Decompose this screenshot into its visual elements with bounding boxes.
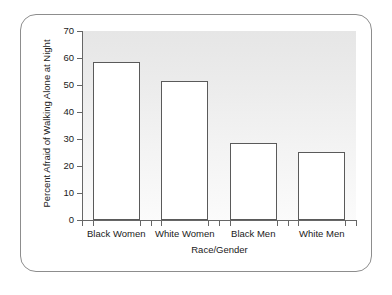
y-axis-line	[82, 31, 83, 221]
y-axis-title: Percent Afraid of Walking Alone at Night	[41, 29, 52, 219]
bar	[298, 152, 345, 220]
x-axis-title: Race/Gender	[82, 244, 357, 255]
bar	[93, 62, 140, 220]
x-axis-category-label: Black Men	[219, 228, 288, 239]
y-axis-tick	[77, 85, 82, 86]
x-axis-tick	[208, 221, 209, 226]
bar	[230, 143, 277, 220]
x-axis-tick	[82, 221, 83, 226]
x-axis-tick	[93, 221, 94, 226]
y-axis-tick-label: 20	[50, 161, 74, 171]
x-axis-category-label: White Women	[151, 228, 220, 239]
y-axis-tick-label: 30	[50, 134, 74, 144]
y-axis-tick-label: 50	[50, 80, 74, 90]
y-axis-tick	[77, 139, 82, 140]
bar	[161, 81, 208, 220]
x-axis-tick	[161, 221, 162, 226]
x-axis-category-label: Black Women	[82, 228, 151, 239]
y-axis-tick	[77, 31, 82, 32]
y-axis-tick	[77, 58, 82, 59]
x-axis-tick	[151, 221, 152, 226]
x-axis-tick	[230, 221, 231, 226]
x-axis-tick	[288, 221, 289, 226]
x-axis-tick	[345, 221, 346, 226]
x-axis-tick	[277, 221, 278, 226]
x-axis-tick	[298, 221, 299, 226]
y-axis-tick	[77, 193, 82, 194]
y-axis-tick-label: 60	[50, 53, 74, 63]
y-axis-tick	[77, 166, 82, 167]
y-axis-tick-label: 70	[50, 26, 74, 36]
y-axis-tick-label: 40	[50, 107, 74, 117]
y-axis-tick-labels: 010203040506070	[50, 0, 74, 295]
x-axis-tick	[140, 221, 141, 226]
x-axis-tick	[219, 221, 220, 226]
x-axis-category-label: White Men	[288, 228, 357, 239]
y-axis-tick-label: 0	[50, 215, 74, 225]
x-axis-tick	[356, 221, 357, 226]
y-axis-tick	[77, 112, 82, 113]
y-axis-tick-label: 10	[50, 188, 74, 198]
chart-figure: 010203040506070 Black WomenWhite WomenBl…	[0, 0, 392, 295]
